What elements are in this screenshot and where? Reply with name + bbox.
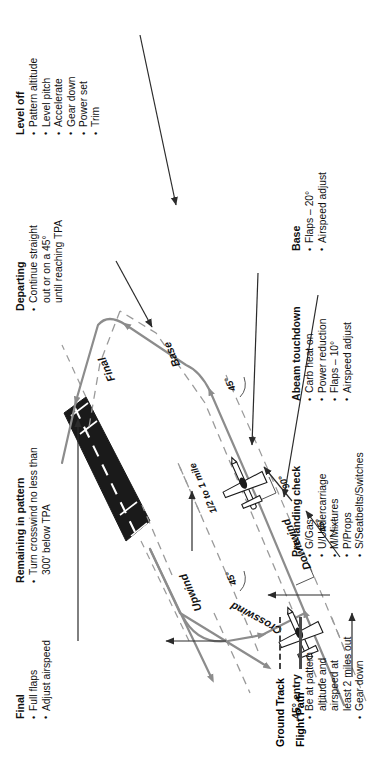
callout-pre-landing-check-item: S/Seatbelts/Switches [354, 452, 366, 557]
callout-base-title: Base [290, 172, 302, 251]
legend-item-ground-track: Ground Track [270, 617, 290, 747]
legend-label-flight-path: Flight Path [294, 669, 306, 747]
flight-path-line-icon [299, 617, 302, 669]
callout-level-off-item: Gear down [66, 58, 78, 135]
callout-remaining-in-pattern-title: Remaining in pattern [14, 447, 26, 583]
legend-label-ground-track: Ground Track [274, 669, 286, 747]
callout-pre-landing-check-item: M/Mixtures [329, 452, 341, 557]
callout-level-off-item: Power set [78, 58, 90, 135]
callout-departing-item: Continue straight out or on a 45° until … [28, 220, 65, 311]
callout-abeam-touchdown-item: Flaps – 10° [329, 306, 341, 401]
callout-final-item: Adjust airspeed [41, 640, 53, 719]
callout-level-off-item: Trim [90, 58, 102, 135]
callout-final-title: Final [14, 640, 26, 719]
callout-base-item: Flaps – 20° [304, 172, 316, 251]
callout-45-entry-list: Be at pattern altitude and airspeed at l… [304, 637, 366, 719]
callout-final-item: Full flaps [28, 640, 40, 719]
callout-abeam-touchdown-item: Airspeed adjust [342, 306, 354, 401]
leg-label-final: Final [95, 355, 117, 384]
callout-base-list: Flaps – 20° Airspeed adjust [304, 172, 329, 251]
callout-45-entry-item: Gear down [354, 637, 366, 719]
callout-abeam-touchdown-list: Carb heat on Power reduction Flaps – 10°… [304, 306, 354, 401]
callout-base-item: Airspeed adjust [317, 172, 329, 251]
callout-remaining-in-pattern-list: Turn crosswind no less than 300' below T… [28, 447, 53, 583]
callout-pre-landing-check: Pre-landing check G/Gas U/Undercarriage … [290, 452, 366, 557]
callout-45-entry-item: Be at pattern altitude and airspeed at l… [304, 637, 354, 719]
spacing-label: 1/2 to 1 mile [186, 461, 218, 516]
callout-departing: Departing Continue straight out or on a … [14, 220, 66, 311]
callout-pre-landing-check-list: G/Gas U/Undercarriage M/Mixtures P/Props… [304, 452, 366, 557]
callout-abeam-touchdown: Abeam touchdown Carb heat on Power reduc… [290, 306, 354, 401]
angle-label-base: 45° [222, 375, 238, 394]
callout-level-off-item: Pattern altitude [28, 58, 40, 135]
callout-level-off-item: Accelerate [53, 58, 65, 135]
traffic-pattern-figure: Final Base Downwind Crosswind Upwind 1/2… [0, 0, 371, 763]
callout-level-off-list: Pattern altitude Level pitch Accelerate … [28, 58, 102, 135]
callout-pre-landing-check-item: U/Undercarriage [317, 452, 329, 557]
runway [62, 345, 190, 643]
callout-departing-title: Departing [14, 220, 26, 311]
ground-track-line-icon [279, 617, 281, 669]
callout-level-off: Level off Pattern altitude Level pitch A… [14, 58, 103, 135]
callout-departing-list: Continue straight out or on a 45° until … [28, 220, 65, 311]
callout-pre-landing-check-item: G/Gas [304, 452, 316, 557]
legend: Ground Track Flight Path [270, 617, 310, 747]
callout-level-off-title: Level off [14, 58, 26, 135]
callout-abeam-touchdown-item: Carb heat on [304, 306, 316, 401]
legend-item-flight-path: Flight Path [290, 617, 310, 747]
rotated-figure-frame: Final Base Downwind Crosswind Upwind 1/2… [0, 0, 371, 763]
aircraft-icon-downwind [212, 449, 275, 518]
callout-leaders-extra [116, 261, 318, 497]
callout-pre-landing-check-title: Pre-landing check [290, 452, 302, 557]
callout-abeam-touchdown-title: Abeam touchdown [290, 306, 302, 401]
leg-label-base: Base [161, 340, 183, 369]
callout-base: Base Flaps – 20° Airspeed adjust [290, 172, 329, 251]
callout-remaining-in-pattern-item: Turn crosswind no less than 300' below T… [28, 447, 53, 583]
leg-label-upwind: Upwind [177, 572, 204, 613]
callout-remaining-in-pattern: Remaining in pattern Turn crosswind no l… [14, 447, 53, 583]
callout-pre-landing-check-item: P/Props [342, 452, 354, 557]
callout-abeam-touchdown-item: Power reduction [317, 306, 329, 401]
callout-final: Final Full flaps Adjust airspeed [14, 640, 53, 719]
callout-final-list: Full flaps Adjust airspeed [28, 640, 53, 719]
callout-level-off-item: Level pitch [41, 58, 53, 135]
